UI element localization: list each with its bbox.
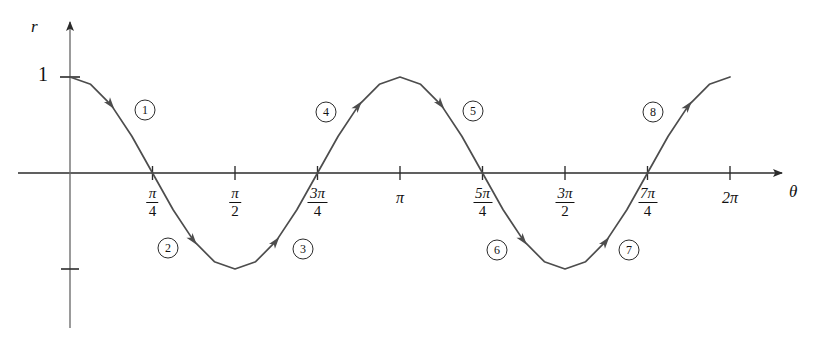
segment-label-1: 1 (135, 100, 156, 121)
x-tick-label-5pi-over-4: 5π4 (473, 186, 492, 219)
x-tick-label-7pi-over-4: 7π4 (638, 186, 657, 219)
segment-label-7: 7 (619, 240, 640, 261)
x-tick-label-2pi: 2π (722, 190, 738, 206)
segment-label-5: 5 (463, 101, 484, 122)
x-tick-label-3pi-over-2: 3π2 (555, 186, 574, 219)
segment-label-4: 4 (316, 102, 337, 123)
y-axis-label: r (31, 18, 38, 35)
y-tick-label-one: 1 (38, 64, 48, 84)
x-tick-label-pi: π (396, 190, 404, 206)
polar-curve-plot (0, 0, 833, 337)
x-tick-label-pi-over-2: π2 (229, 186, 241, 219)
segment-label-3: 3 (293, 239, 314, 260)
figure-canvas: r θ 1 π4π23π4π5π43π27π42π 12345678 (0, 0, 833, 337)
x-tick-label-pi-over-4: π4 (147, 186, 159, 219)
x-axis-label: θ (789, 183, 797, 200)
segment-label-8: 8 (643, 102, 664, 123)
segment-label-6: 6 (487, 240, 508, 261)
segment-label-2: 2 (158, 238, 179, 259)
x-tick-label-3pi-over-4: 3π4 (308, 186, 327, 219)
